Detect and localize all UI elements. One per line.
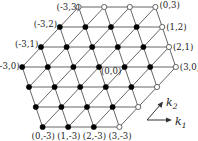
lattice-edge: [41, 47, 48, 67]
lattice-edge: [94, 107, 113, 127]
node-label: (3,-3): [108, 131, 131, 141]
lattice-edge: [118, 47, 125, 67]
lattice-edge: [29, 87, 36, 107]
lattice-node: [108, 24, 113, 29]
boundary-node-open: [136, 104, 141, 109]
k2-label: k2: [166, 96, 178, 111]
node-label: (-3,3): [57, 2, 80, 12]
lattice-edge: [41, 27, 60, 47]
lattice-edge: [22, 47, 41, 67]
node-label: (0,3): [159, 0, 179, 10]
lattice-node: [83, 24, 88, 29]
lattice-node: [57, 24, 62, 29]
lattice-node: [103, 84, 108, 89]
boundary-node-open: [127, 4, 132, 9]
lattice-node: [110, 104, 115, 109]
lattice-edge: [85, 7, 104, 27]
node-label: (-3,2): [34, 19, 57, 29]
lattice-node: [26, 84, 31, 89]
lattice-node: [115, 44, 120, 49]
lattice-edge: [22, 67, 29, 87]
lattice-edge: [131, 87, 138, 107]
lattice-node: [33, 104, 38, 109]
lattice-edge: [36, 87, 55, 107]
lattice-edge: [55, 87, 62, 107]
boundary-node-open: [102, 4, 107, 9]
lattice-edge: [99, 47, 118, 67]
lattice-node: [45, 64, 50, 69]
lattice-edge: [150, 47, 169, 67]
lattice-edge: [48, 67, 55, 87]
lattice-edge: [138, 87, 157, 107]
lattice-node: [141, 44, 146, 49]
k1-arrowhead-icon: [166, 118, 172, 123]
lattice-node: [64, 44, 69, 49]
lattice-edge: [155, 7, 162, 27]
lattice-edge: [60, 27, 67, 47]
lattice-edge: [106, 87, 113, 107]
lattice-edge: [113, 107, 120, 127]
lattice-edge: [67, 47, 74, 67]
lattice-edge: [61, 107, 68, 127]
lattice-edge: [131, 67, 150, 87]
lattice-edge: [85, 27, 92, 47]
lattice-edge: [73, 67, 80, 87]
lattice-node: [40, 124, 45, 129]
lattice-edge: [73, 47, 92, 67]
lattice-node: [90, 44, 95, 49]
lattice-node: [78, 84, 83, 89]
lattice-node: [122, 64, 127, 69]
lattice-edge: [137, 27, 144, 47]
lattice-edge: [143, 27, 162, 47]
lattice-edge: [48, 47, 67, 67]
lattice-edge: [125, 47, 144, 67]
lattice-edge: [67, 27, 86, 47]
lattice-edge: [43, 107, 62, 127]
lattice-edge: [36, 107, 43, 127]
lattice-edge: [87, 87, 106, 107]
lattice-node: [84, 104, 89, 109]
lattice-edge: [61, 87, 80, 107]
boundary-node-open: [117, 124, 122, 129]
node-label: (3,0): [180, 62, 198, 72]
boundary-node-open: [153, 4, 158, 9]
lattice-edge: [68, 107, 87, 127]
k1-label: k1: [175, 115, 186, 130]
node-label: (1,-3): [57, 131, 80, 141]
boundary-node-open: [160, 24, 165, 29]
lattice-edge: [130, 7, 137, 27]
lattice-edge: [119, 107, 138, 127]
boundary-node-open: [154, 84, 159, 89]
lattice-edge: [92, 27, 111, 47]
lattice-edge: [125, 67, 132, 87]
lattice-edge: [157, 67, 176, 87]
lattice-edge: [92, 47, 99, 67]
lattice-node: [52, 84, 57, 89]
node-label: (-3,0): [0, 61, 19, 71]
lattice-edge: [111, 7, 130, 27]
node-label: (-3,1): [15, 39, 38, 49]
lattice-node: [134, 24, 139, 29]
lattice-edge: [80, 87, 87, 107]
lattice-edge: [113, 87, 132, 107]
node-label: (2,1): [173, 42, 193, 52]
basis-vectors: k1 k2: [147, 96, 186, 130]
lattice-edge: [137, 7, 156, 27]
lattice-edge: [111, 27, 118, 47]
lattice-node: [66, 124, 71, 129]
lattice-edge: [87, 107, 94, 127]
lattice-node: [91, 124, 96, 129]
node-label: (1,2): [166, 22, 186, 32]
lattice-edge: [118, 27, 137, 47]
node-label: (0,0): [101, 66, 121, 76]
node-label: (2,-3): [83, 131, 106, 141]
boundary-node-open: [173, 64, 178, 69]
node-label: (0,-3): [32, 131, 55, 141]
lattice-edge: [29, 67, 48, 87]
lattice-node: [38, 44, 43, 49]
lattice-edge: [143, 47, 150, 67]
lattice-node: [59, 104, 64, 109]
boundary-node-open: [166, 44, 171, 49]
k2-arrow: [147, 104, 161, 120]
lattice-node: [20, 64, 25, 69]
